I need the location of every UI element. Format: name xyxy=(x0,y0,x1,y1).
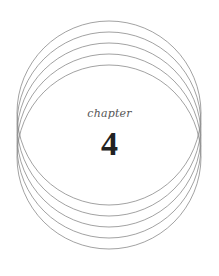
chapter-number: 4 xyxy=(0,126,219,162)
chapter-label: chapter xyxy=(0,107,219,121)
ornament-circle xyxy=(17,32,201,216)
